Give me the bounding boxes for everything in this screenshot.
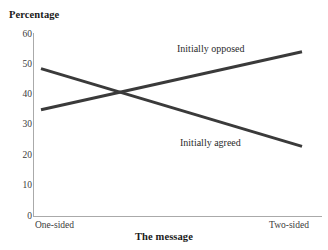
percentage-line-chart: Percentage 60 50 40 30 20 10 0 One-sided… <box>0 0 328 250</box>
plot-area <box>0 0 328 250</box>
